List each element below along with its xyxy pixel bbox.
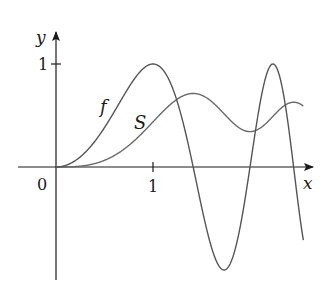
x-axis-label: x (303, 173, 313, 193)
origin-label: 0 (37, 175, 47, 194)
figure-canvas: y x 0 1 1 f S (0, 0, 333, 291)
y-tick-label-1: 1 (38, 55, 48, 74)
curve-label-f: f (98, 96, 110, 117)
y-axis-label: y (35, 27, 46, 47)
curve-s (56, 93, 303, 167)
curve-label-s: S (134, 112, 146, 133)
x-tick-label-1: 1 (148, 177, 158, 196)
